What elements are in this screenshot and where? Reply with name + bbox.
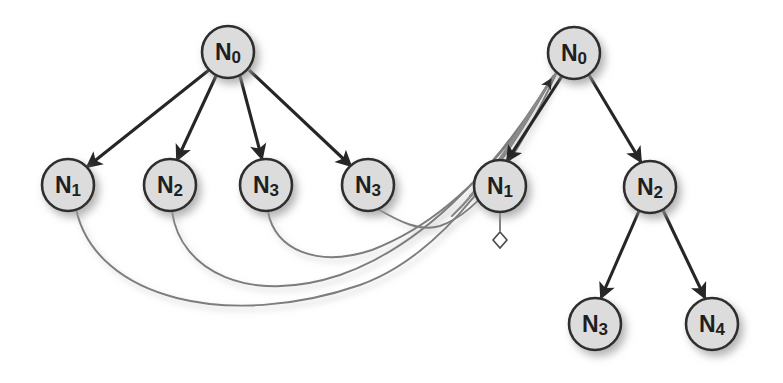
node-group: [42, 26, 738, 350]
right-edge-n2-n4[interactable]: [663, 210, 705, 298]
left-edge-n0-n3b[interactable]: [249, 70, 351, 166]
left-edge-n0-n2[interactable]: [177, 76, 216, 160]
right-edge-n0-n2[interactable]: [589, 75, 641, 162]
left-edge-n0-n1[interactable]: [87, 70, 209, 167]
right-n1-diamond-group: [493, 212, 507, 248]
left-edge-n0-n3a[interactable]: [240, 76, 262, 159]
left-tree-edges: [87, 70, 351, 167]
diagram-canvas: N0 N1 N2 N3 N3 N0 N1 N2: [0, 0, 783, 383]
diagram-root: N0 N1 N2 N3 N3 N0 N1 N2: [0, 0, 783, 383]
diamond-icon[interactable]: [493, 232, 507, 248]
right-edge-n2-n3[interactable]: [601, 211, 639, 298]
right-edge-n0-n1[interactable]: [507, 76, 562, 161]
